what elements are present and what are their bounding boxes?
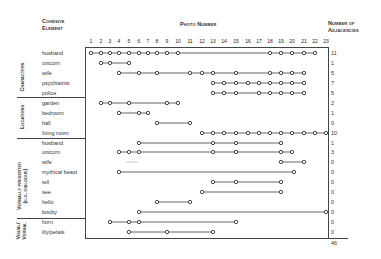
photo-dot [211,71,214,74]
photo-dot [99,101,102,104]
photo-dot [268,71,271,74]
photo-dot [279,71,282,74]
photo-dot [137,150,140,153]
photo-dot [108,220,111,223]
photo-dot [324,131,327,134]
photo-dot [313,51,316,54]
photo-dot [279,141,282,144]
photo-dot [188,71,191,74]
photo-dot [313,131,316,134]
photo-dot [290,131,293,134]
photo-dot [222,81,225,84]
photo-dot [302,131,305,134]
photo-dot [155,51,158,54]
photo-dot [279,91,282,94]
photo-dot [268,131,271,134]
photo-dot [188,121,191,124]
photo-dot [117,170,120,173]
photo-dot [127,220,130,223]
photo-dot [108,61,111,64]
photo-dot [257,81,260,84]
photo-dot [117,150,120,153]
photo-dot [99,51,102,54]
photo-dot [146,111,149,114]
photo-dot [279,150,282,153]
photo-dot [234,150,237,153]
photo-dot [246,81,249,84]
photo-dot [127,101,130,104]
photo-dot [117,71,120,74]
photo-dot [211,81,214,84]
photo-dot [290,150,293,153]
photo-dot [279,51,282,54]
photo-dot [127,61,130,64]
photo-dot [127,230,130,233]
photo-dot [279,180,282,183]
photo-dot [279,190,282,193]
photo-dot [127,51,130,54]
photo-dot [155,121,158,124]
photo-dot [117,51,120,54]
photo-dot [268,81,271,84]
photo-dot [211,141,214,144]
photo-dot [165,101,168,104]
photo-dot [137,111,140,114]
photo-dot [279,81,282,84]
photo-dot [324,210,327,213]
photo-dot [279,131,282,134]
photo-dot [89,51,92,54]
photo-dot [246,131,249,134]
photo-dot [234,81,237,84]
photo-dot [146,51,149,54]
photo-dot [234,220,237,223]
photo-dot [290,51,293,54]
photo-dot [234,141,237,144]
photo-dot [268,91,271,94]
photo-dot [108,101,111,104]
photo-dot [302,81,305,84]
photo-dot [211,230,214,233]
photo-dot [137,210,140,213]
photo-dot [200,71,203,74]
photo-dot [234,131,237,134]
photo-dot [155,200,158,203]
photo-dot [234,180,237,183]
photo-dot [292,170,295,173]
photo-dot [137,141,140,144]
photo-dot [290,81,293,84]
photo-dot [234,91,237,94]
photo-dot [211,131,214,134]
photo-dot [200,131,203,134]
photo-dot [268,51,271,54]
photo-dot [137,220,140,223]
photo-dot [302,51,305,54]
photo-dot [302,91,305,94]
photo-dot [222,91,225,94]
timeline-plot [0,0,381,259]
photo-dot [257,131,260,134]
photo-dot [155,71,158,74]
photo-dot [222,131,225,134]
photo-dot [165,51,168,54]
photo-dot [165,230,168,233]
photo-dot [279,160,282,163]
photo-dot [99,61,102,64]
photo-dot [211,91,214,94]
photo-dot [188,200,191,203]
photo-dot [127,150,130,153]
photo-dot [257,91,260,94]
photo-dot [137,51,140,54]
photo-dot [176,101,179,104]
photo-dot [211,150,214,153]
photo-dot [302,160,305,163]
photo-dot [108,51,111,54]
photo-dot [290,71,293,74]
photo-dot [137,71,140,74]
photo-dot [302,71,305,74]
photo-dot [176,51,179,54]
photo-dot [200,190,203,193]
photo-dot [290,91,293,94]
photo-dot [234,71,237,74]
photo-dot [211,180,214,183]
photo-dot [117,111,120,114]
